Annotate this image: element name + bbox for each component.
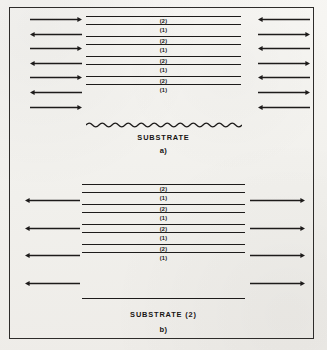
diagram-panel-a: (2)(1)(2)(1)(2)(1)(2)(1) SUBSTRATE a)	[0, 0, 327, 172]
layer-label: (1)	[82, 196, 245, 202]
flow-arrow-left	[258, 103, 310, 112]
layer-row: (2)	[82, 204, 245, 213]
layer-row: (1)	[86, 85, 241, 96]
layer-row: (2)	[82, 184, 245, 193]
diagram-panel-b: (2)(1)(2)(1)(2)(1)(2)(1) SUBSTRATE (2) b…	[0, 172, 327, 350]
flow-arrow-right	[258, 59, 310, 68]
flow-arrow-right	[250, 279, 305, 288]
layer-label: (2)	[82, 187, 245, 193]
flow-arrow-left	[258, 73, 310, 82]
layer-label: (1)	[82, 236, 245, 242]
flow-arrow-right	[258, 30, 310, 39]
flow-arrow-left	[30, 59, 82, 68]
layer-stack-b: (2)(1)(2)(1)(2)(1)(2)(1)	[82, 184, 245, 264]
layer-label: (1)	[86, 48, 241, 54]
layer-label: (1)	[86, 28, 241, 34]
flow-arrow-right	[250, 196, 305, 205]
layer-row: (1)	[82, 233, 245, 244]
layer-stack-a: (2)(1)(2)(1)(2)(1)(2)(1)	[86, 16, 241, 96]
flow-arrow-left	[30, 30, 82, 39]
layer-row: (1)	[86, 45, 241, 56]
straight-substrate-boundary-b	[82, 298, 245, 299]
layer-row: (1)	[82, 253, 245, 264]
flow-arrow-left	[30, 88, 82, 97]
layer-row: (1)	[86, 25, 241, 36]
layer-label: (2)	[86, 79, 241, 85]
flow-arrow-right	[258, 88, 310, 97]
panel-label-a: a)	[0, 147, 327, 155]
flow-arrow-right	[250, 251, 305, 260]
flow-arrow-right	[30, 73, 82, 82]
layer-label: (1)	[86, 68, 241, 74]
figure-root: (2)(1)(2)(1)(2)(1)(2)(1) SUBSTRATE a) (2…	[0, 0, 327, 350]
layer-label: (2)	[86, 39, 241, 45]
layer-row: (2)	[82, 244, 245, 253]
layer-row: (2)	[86, 36, 241, 45]
layer-label: (2)	[82, 227, 245, 233]
layer-label: (1)	[82, 216, 245, 222]
flow-arrow-right	[30, 44, 82, 53]
layer-row: (2)	[86, 56, 241, 65]
flow-arrow-left	[25, 251, 80, 260]
layer-row: (1)	[86, 65, 241, 76]
layer-row: (2)	[86, 16, 241, 25]
flow-arrow-left	[25, 279, 80, 288]
flow-arrow-right	[30, 15, 82, 24]
flow-arrow-left	[25, 224, 80, 233]
layer-label: (1)	[86, 88, 241, 94]
layer-row: (2)	[82, 224, 245, 233]
panel-label-b: b)	[0, 326, 327, 334]
layer-label: (2)	[82, 207, 245, 213]
flow-arrow-right	[30, 103, 82, 112]
layer-label: (1)	[82, 256, 245, 262]
layer-row: (2)	[86, 76, 241, 85]
flow-arrow-left	[258, 15, 310, 24]
substrate-label-b: SUBSTRATE (2)	[0, 311, 327, 318]
flow-arrow-right	[250, 224, 305, 233]
flow-arrow-left	[258, 44, 310, 53]
layer-label: (2)	[86, 59, 241, 65]
wavy-substrate-boundary-a	[86, 120, 242, 128]
layer-row: (1)	[82, 213, 245, 224]
layer-label: (2)	[86, 19, 241, 25]
layer-label: (2)	[82, 247, 245, 253]
substrate-label-a: SUBSTRATE	[0, 134, 327, 141]
flow-arrow-left	[25, 196, 80, 205]
layer-row: (1)	[82, 193, 245, 204]
